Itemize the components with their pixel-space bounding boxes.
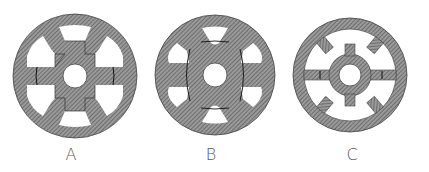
center-hole: [203, 63, 227, 87]
disc-b: [155, 15, 275, 135]
center-hole: [63, 64, 87, 88]
label-a: A: [56, 145, 86, 164]
center-hole: [339, 64, 361, 86]
disc-c: [293, 18, 407, 132]
label-b: B: [196, 145, 226, 164]
disc-a: [13, 14, 137, 138]
label-c: C: [337, 145, 367, 164]
